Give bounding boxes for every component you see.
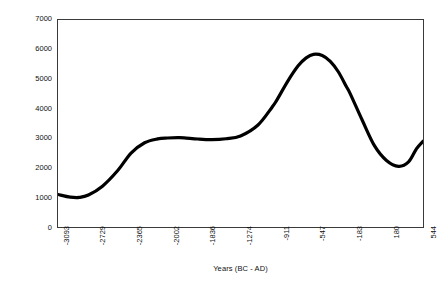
x-tick-label: -2729 [98,226,107,266]
x-tick-label: -3093 [62,226,71,266]
x-tick-label: -1836 [208,226,217,266]
x-tick-label: -1274 [245,226,254,266]
x-tick-label: -2002 [172,226,181,266]
x-tick-label: -2365 [135,226,144,266]
x-tick-label: -911 [282,226,291,266]
x-tick-label: 544 [429,226,438,266]
x-axis-title: Years (BC - AD) [57,264,424,273]
x-tick-label: 180 [392,226,401,266]
x-tick-label: -183 [355,226,364,266]
x-tick-label: -547 [318,226,327,266]
